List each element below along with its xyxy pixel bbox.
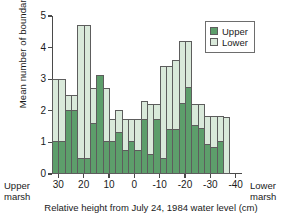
y-tick-label: 5 — [40, 11, 46, 21]
x-tick-label: -10 — [152, 180, 166, 190]
x-tick-label: -20 — [178, 180, 192, 190]
x-tick — [159, 174, 160, 178]
legend-item-lower: Lower — [210, 38, 248, 48]
y-tick-label: 4 — [40, 43, 46, 53]
y-tick-label: 2 — [40, 106, 46, 116]
x-axis-title: Relative height from July 24, 1984 water… — [0, 202, 302, 213]
lower-marsh-line2: marsh — [250, 191, 276, 202]
y-tick-label: 0 — [40, 169, 46, 179]
legend-label-upper: Upper — [222, 27, 248, 37]
lower-marsh-caption: Lower marsh — [250, 180, 276, 202]
y-tick — [48, 47, 52, 48]
x-tick — [108, 174, 109, 178]
x-tick-label: -30 — [203, 180, 217, 190]
x-tick-label: -40 — [228, 180, 242, 190]
x-tick — [184, 174, 185, 178]
x-tick-label: 30 — [53, 180, 64, 190]
x-tick-label: 0 — [132, 180, 138, 190]
x-tick — [235, 174, 236, 178]
x-tick — [210, 174, 211, 178]
x-tick — [134, 174, 135, 178]
upper-marsh-line1: Upper — [4, 180, 30, 191]
chart-legend: Upper Lower — [205, 21, 255, 53]
y-tick — [48, 15, 52, 16]
legend-swatch-lower — [210, 38, 218, 46]
y-tick-label: 1 — [40, 137, 46, 147]
x-tick — [83, 174, 84, 178]
bar-upper — [217, 141, 224, 174]
y-tick-label: 3 — [40, 74, 46, 84]
legend-item-upper: Upper — [210, 27, 248, 37]
legend-label-lower: Lower — [222, 38, 248, 48]
upper-marsh-caption: Upper marsh — [4, 180, 30, 202]
x-tick-label: 20 — [78, 180, 89, 190]
legend-swatch-upper — [210, 27, 218, 35]
y-axis-title: Mean number of boundaries — [17, 0, 28, 118]
lower-marsh-line1: Lower — [250, 180, 276, 191]
bar-lower — [223, 117, 230, 175]
upper-marsh-line2: marsh — [4, 191, 30, 202]
chart-figure: Mean number of boundaries 0123453020100-… — [0, 0, 302, 217]
x-tick — [58, 174, 59, 178]
x-tick-label: 10 — [103, 180, 114, 190]
